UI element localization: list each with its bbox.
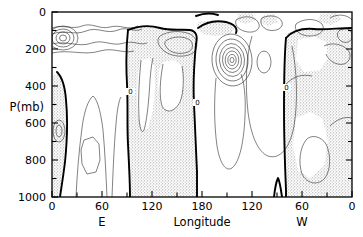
contour-label-0-a: 0 <box>128 88 132 96</box>
hemisphere-label-west: W <box>296 215 307 229</box>
x-tick-120e: 120 <box>142 200 163 213</box>
y-tick-600: 600 <box>25 117 46 130</box>
contour-figure: 0 0 0 <box>0 0 363 237</box>
y-tick-400: 400 <box>25 80 46 93</box>
x-tick-360: 0 <box>349 200 356 213</box>
hemisphere-label-east: E <box>98 215 105 229</box>
y-tick-0: 0 <box>39 6 46 19</box>
x-tick-0: 0 <box>49 200 56 213</box>
x-axis-title: Longitude <box>173 215 230 229</box>
x-tick-60w: 60 <box>295 200 309 213</box>
contour-label-0-c: 0 <box>284 84 288 92</box>
x-tick-120w: 120 <box>242 200 263 213</box>
y-tick-1000: 1000 <box>18 191 46 204</box>
y-tick-200: 200 <box>25 43 46 56</box>
y-tick-800: 800 <box>25 154 46 167</box>
x-tick-180: 180 <box>192 200 213 213</box>
x-tick-60e: 60 <box>95 200 109 213</box>
contour-plot-svg: 0 0 0 <box>0 0 363 237</box>
y-axis-title: P(mb) <box>10 100 44 114</box>
contour-label-0-b: 0 <box>195 99 199 107</box>
